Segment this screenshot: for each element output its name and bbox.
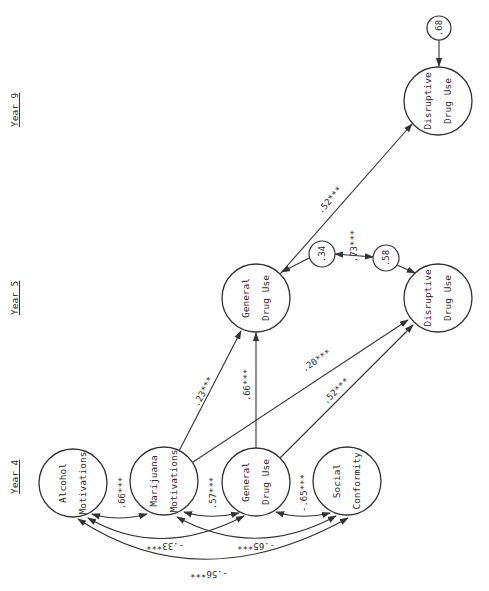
node-label-line2: Drug Use <box>442 275 453 321</box>
year-label-9: Year 9 <box>9 92 20 127</box>
residual-value: .58 <box>381 250 391 266</box>
node-label-line1: Alcohol <box>57 463 68 503</box>
node-label-line1: Disruptive <box>422 269 433 326</box>
path-mm-to-ddu5 <box>193 320 408 462</box>
corr-am-mm <box>92 514 147 518</box>
node-label-line2: Motivations <box>168 450 179 513</box>
node-disruptive-drug-use-y9: Disruptive Drug Use <box>404 67 472 135</box>
year-labels: Year 9 Year 5 Year 4 <box>9 92 20 494</box>
node-marijuana-motivations: Marijuana Motivations <box>130 447 198 515</box>
node-label-line2: Drug Use <box>260 275 271 321</box>
coef-mm-to-ddu5: .20*** <box>300 347 333 373</box>
node-label-line2: Drug Use <box>260 459 271 505</box>
coef-am-mm: .66*** <box>117 477 127 510</box>
node-label-line1: Disruptive <box>422 72 433 129</box>
path-mm-to-gdu5 <box>179 331 241 451</box>
node-label-line2: Drug Use <box>442 78 453 124</box>
corr-mm-sc <box>177 516 336 538</box>
corr-am-sc <box>78 518 348 559</box>
residual-ddu-y9: .68 <box>427 16 451 40</box>
coef-gdu5-to-ddu9: .52*** <box>315 184 344 215</box>
node-label-line2: Conformity <box>351 452 362 509</box>
path-diagram: Year 9 Year 5 Year 4 Alcohol Motivations… <box>0 0 489 591</box>
node-disruptive-drug-use-y5: Disruptive Drug Use <box>404 264 472 332</box>
residual-value: .34 <box>317 246 327 262</box>
residual-gdu-y5: .34 <box>309 241 335 267</box>
node-label-line2: Motivations <box>77 452 88 515</box>
node-social-conformity: Social Conformity <box>313 447 381 515</box>
node-general-drug-use-y4: General Drug Use <box>222 448 290 516</box>
node-label-line1: General <box>240 462 251 502</box>
coef-am-gdu4: -.33*** <box>146 541 184 551</box>
year-label-5: Year 5 <box>9 281 20 315</box>
corr-am-gdu4 <box>88 516 244 539</box>
coef-mm-sc: -.65*** <box>237 541 275 551</box>
node-alcohol-motivations: Alcohol Motivations <box>39 449 107 517</box>
coef-gdu4-sc: -.65*** <box>299 474 309 512</box>
coef-am-sc: -.56*** <box>190 569 228 579</box>
node-general-drug-use-y5: General Drug Use <box>222 264 290 332</box>
coef-gdu4-to-gdu5: .66*** <box>242 369 252 402</box>
node-label-line1: Marijuana <box>148 455 159 506</box>
path-resid-to-ddu5 <box>397 265 415 273</box>
node-label-line1: Social <box>331 464 342 498</box>
coef-mm-gdu4: .57*** <box>208 477 218 510</box>
path-resid-to-gdu5 <box>282 258 309 272</box>
coef-resid-gdu5-ddu5: .73*** <box>349 230 359 263</box>
residual-ddu-y5: .58 <box>373 245 399 271</box>
residual-value: .68 <box>434 20 444 36</box>
year-label-4: Year 4 <box>9 459 20 494</box>
corr-mm-gdu4 <box>184 512 239 516</box>
node-label-line1: General <box>240 278 251 318</box>
